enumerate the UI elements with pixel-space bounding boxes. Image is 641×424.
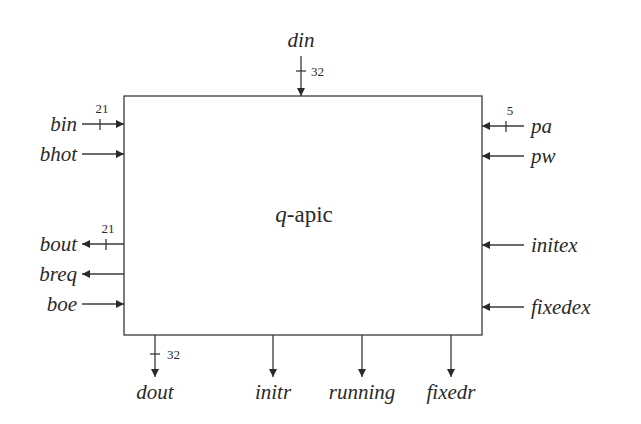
signal-running: running [329,335,396,404]
signal-label: fixedex [531,295,591,319]
signal-bout: bout 21 [40,221,124,256]
signal-label: boe [47,292,77,316]
signal-label: breq [39,262,77,286]
signal-label: bin [50,112,77,136]
signal-label: dout [136,380,175,404]
signal-bin: bin 21 [50,101,124,136]
bus-width: 32 [311,64,324,79]
signal-label: pa [529,114,552,138]
signal-label: bout [40,232,79,256]
signal-initr: initr [255,335,292,404]
signal-fixedr: fixedr [427,335,477,404]
signal-dout: 32 dout [136,335,180,404]
signal-label: initex [531,233,578,257]
signal-bhot: bhot [40,142,124,166]
signal-boe: boe [47,292,124,316]
signal-breq: breq [39,262,124,286]
signal-pw: pw [482,144,556,168]
bus-width: 21 [102,221,115,236]
signal-label: din [288,28,315,52]
signal-label: running [329,380,396,404]
signal-pa: 5 pa [482,103,552,138]
signal-din: din 32 [288,28,324,96]
signal-label: pw [529,144,556,168]
block-title: q-apic [275,202,332,227]
signal-label: initr [255,380,292,404]
bus-width: 32 [167,347,180,362]
bus-width: 21 [96,101,109,116]
signal-initex: initex [482,233,578,257]
block-diagram: q-apic din 32 bin 21 bhot bout 21 breq b… [0,0,641,424]
signal-fixedex: fixedex [482,295,591,319]
signal-label: bhot [40,142,79,166]
signal-label: fixedr [427,380,477,404]
bus-width: 5 [507,103,514,118]
